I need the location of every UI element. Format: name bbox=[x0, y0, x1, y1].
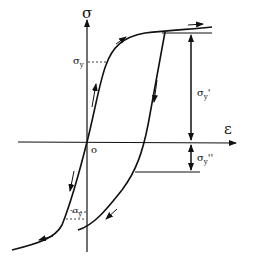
arrow-top-right bbox=[188, 24, 203, 25]
span-lower-prime: '' bbox=[208, 152, 214, 163]
span-upper-label: σy' bbox=[197, 88, 211, 101]
epsilon-axis-label: ε bbox=[224, 122, 232, 137]
reverse-yield-subscript: y bbox=[78, 210, 82, 218]
yield-stress-label: σy bbox=[73, 56, 84, 69]
span-upper-symbol: σ bbox=[197, 87, 204, 98]
loading-curve bbox=[12, 27, 212, 250]
origin-label: o bbox=[91, 145, 97, 155]
reverse-yield-symbol: -σ bbox=[70, 206, 78, 215]
arrow-bottom-right bbox=[106, 209, 117, 219]
sigma-axis-label: σ bbox=[82, 6, 92, 21]
epsilon-axis bbox=[18, 142, 236, 143]
hysteresis-diagram bbox=[0, 0, 255, 269]
reverse-yield-label: -σy bbox=[70, 207, 82, 218]
yield-stress-subscript: y bbox=[80, 61, 84, 69]
arrow-down-reverse bbox=[70, 171, 74, 191]
unloading-curve bbox=[78, 32, 165, 230]
span-lower-label: σy'' bbox=[197, 153, 213, 166]
yield-stress-symbol: σ bbox=[73, 55, 80, 66]
span-upper-prime: ' bbox=[208, 87, 211, 98]
span-lower-symbol: σ bbox=[197, 152, 204, 163]
